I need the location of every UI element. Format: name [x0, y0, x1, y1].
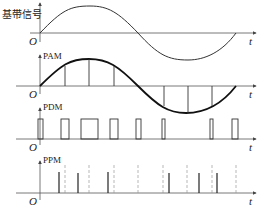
ppm-origin-label: O: [29, 196, 37, 207]
baseband-time-label: t: [249, 36, 252, 47]
baseband-origin-label: O: [29, 36, 37, 47]
pdm-pulse: [210, 119, 213, 139]
pdm-time-label: t: [249, 142, 252, 153]
pdm-pulse: [38, 119, 43, 139]
pdm-pulse: [61, 119, 69, 139]
pdm-panel: [16, 108, 256, 145]
pam-label: PAM: [43, 52, 62, 61]
pdm-pulses: [38, 119, 238, 139]
baseband-label: 基带信号: [2, 10, 42, 20]
pdm-pulse: [162, 119, 165, 139]
baseband-panel: [30, 3, 256, 60]
ppm-label: PPM: [43, 156, 61, 165]
ppm-panel: [16, 161, 256, 200]
pdm-label: PDM: [43, 103, 63, 112]
pdm-pulse: [136, 119, 141, 139]
pulse-modulation-diagram: [0, 0, 258, 214]
pdm-pulse: [232, 119, 238, 139]
pam-time-label: t: [249, 89, 252, 100]
pam-origin-label: O: [29, 89, 37, 100]
pdm-origin-label: O: [29, 142, 37, 153]
ppm-reference-lines: [65, 163, 236, 193]
pdm-pulse: [81, 119, 98, 139]
ppm-time-label: t: [249, 196, 252, 207]
pdm-pulse: [110, 119, 118, 139]
